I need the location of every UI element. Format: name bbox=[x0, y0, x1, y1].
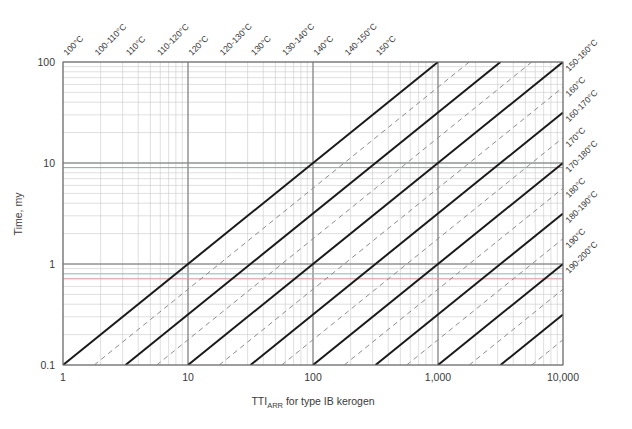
y-axis-tick-label: 1 bbox=[49, 258, 55, 270]
ttl-arrhenius-chart: 1101001,00010,000 0.1110100 100°C100-110… bbox=[0, 0, 632, 429]
y-axis-tick-label: 0.1 bbox=[40, 359, 55, 371]
x-axis-title-subscript: ARR bbox=[267, 401, 283, 410]
y-axis-tick-label: 10 bbox=[43, 157, 55, 169]
x-axis-title-main: TTI bbox=[251, 395, 267, 407]
x-axis-tick-label: 1,000 bbox=[425, 371, 451, 383]
y-axis-tick-label: 100 bbox=[37, 56, 55, 68]
x-axis-tick-label: 10,000 bbox=[547, 371, 579, 383]
x-axis-tick-label: 10 bbox=[182, 371, 194, 383]
x-axis-tick-label: 1 bbox=[60, 371, 66, 383]
y-axis-title: Time, my bbox=[12, 192, 24, 236]
chart-container: 1101001,00010,000 0.1110100 100°C100-110… bbox=[0, 0, 632, 429]
x-axis-tick-label: 100 bbox=[304, 371, 322, 383]
x-axis-title-rest: for type IB kerogen bbox=[283, 395, 375, 407]
